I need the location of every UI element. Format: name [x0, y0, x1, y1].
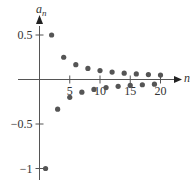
data-point — [61, 55, 66, 60]
data-point — [128, 83, 133, 88]
data-point — [97, 68, 102, 73]
data-point — [122, 71, 127, 76]
data-point — [158, 72, 163, 77]
data-point — [67, 95, 72, 100]
data-point — [49, 32, 54, 37]
data-point — [146, 72, 151, 77]
data-point — [43, 166, 48, 171]
sequence-scatter-plot: 51015200.5−0.5−1 an n — [0, 0, 196, 188]
ticks: 51015200.5−0.5−1 — [11, 28, 167, 176]
data-point — [79, 90, 84, 95]
data-point — [116, 84, 121, 89]
y-tick-label: 0.5 — [18, 28, 33, 42]
data-point — [110, 69, 115, 74]
y-tick-label: −1 — [20, 162, 33, 176]
data-point — [134, 71, 139, 76]
data-point — [140, 82, 145, 87]
x-axis-label: n — [184, 71, 190, 85]
y-tick-label: −0.5 — [11, 117, 33, 131]
axes — [18, 15, 182, 180]
data-points — [43, 32, 163, 171]
x-axis-arrow-icon — [174, 76, 182, 83]
data-point — [91, 87, 96, 92]
data-point — [152, 82, 157, 87]
data-point — [85, 66, 90, 71]
data-point — [73, 62, 78, 67]
data-point — [103, 85, 108, 90]
y-axis-label: an — [36, 2, 47, 18]
data-point — [55, 107, 60, 112]
